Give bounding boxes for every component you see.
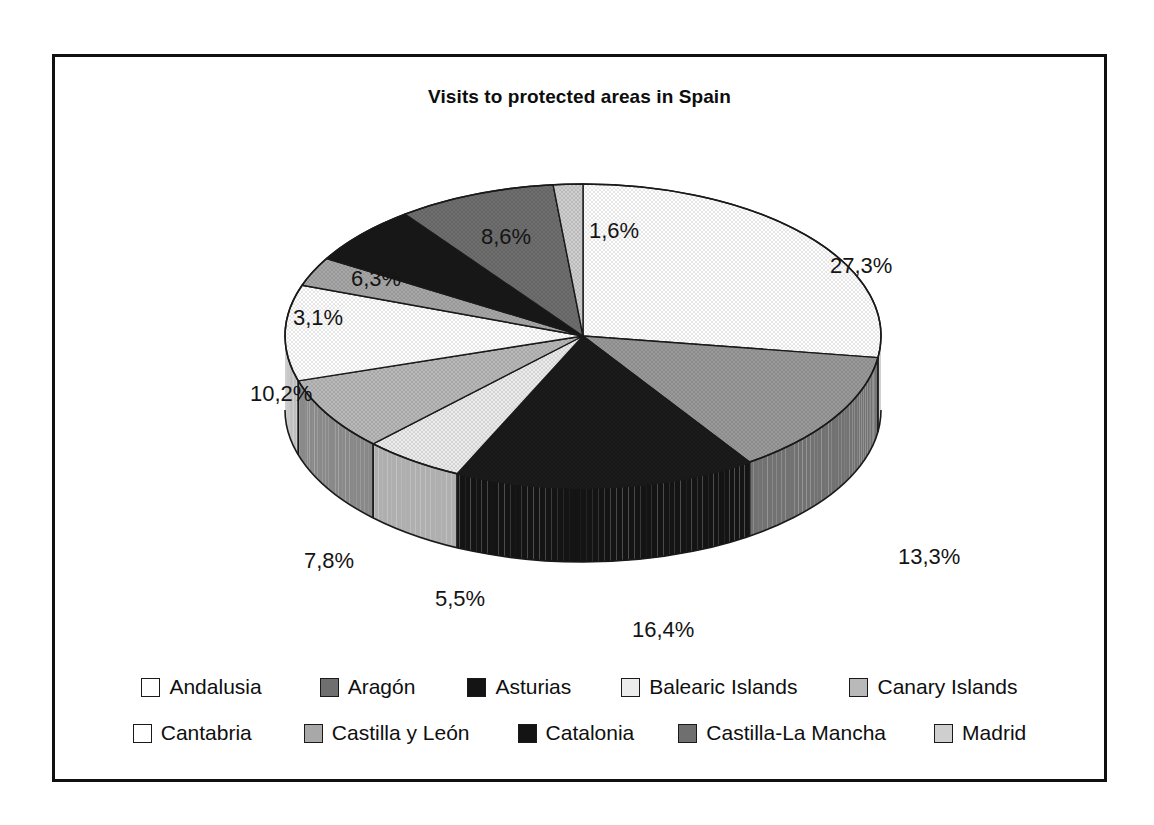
slice-percentage-label: 7,8% bbox=[304, 548, 354, 574]
legend-swatch-icon bbox=[678, 724, 697, 743]
legend-swatch-icon bbox=[304, 724, 323, 743]
legend-swatch-icon bbox=[467, 678, 486, 697]
legend-item-castilla-la-mancha[interactable]: Castilla-La Mancha bbox=[678, 721, 886, 745]
legend-swatch-icon bbox=[518, 724, 537, 743]
legend-row: CantabriaCastilla y LeónCataloniaCastill… bbox=[55, 721, 1104, 745]
legend-swatch-icon bbox=[621, 678, 640, 697]
slice-percentage-label: 1,6% bbox=[589, 218, 639, 244]
legend-item-label: Madrid bbox=[962, 721, 1026, 745]
slice-percentage-label: 27,3% bbox=[830, 253, 892, 279]
legend-item-andalusia[interactable]: Andalusia bbox=[141, 675, 261, 699]
legend-item-label: Canary Islands bbox=[877, 675, 1017, 699]
legend-swatch-icon bbox=[934, 724, 953, 743]
legend-item-asturias[interactable]: Asturias bbox=[467, 675, 571, 699]
legend-item-label: Balearic Islands bbox=[649, 675, 797, 699]
legend-swatch-icon bbox=[320, 678, 339, 697]
slice-percentage-label: 10,2% bbox=[250, 381, 312, 407]
pie-chart: 27,3%13,3%16,4%5,5%7,8%10,2%3,1%6,3%8,6%… bbox=[55, 57, 1110, 617]
legend-swatch-icon bbox=[141, 678, 160, 697]
legend-swatch-icon bbox=[849, 678, 868, 697]
legend-item-catalonia[interactable]: Catalonia bbox=[518, 721, 635, 745]
legend-item-label: Andalusia bbox=[169, 675, 261, 699]
legend-row: AndalusiaAragónAsturiasBalearic IslandsC… bbox=[55, 675, 1104, 699]
chart-canvas: Visits to protected areas in Spain 27,3%… bbox=[0, 0, 1154, 825]
legend-swatch-icon bbox=[133, 724, 152, 743]
slice-percentage-label: 3,1% bbox=[293, 305, 343, 331]
slice-percentage-label: 5,5% bbox=[435, 586, 485, 612]
legend-item-label: Cantabria bbox=[161, 721, 252, 745]
legend-item-label: Aragón bbox=[348, 675, 416, 699]
slice-percentage-label: 6,3% bbox=[351, 266, 401, 292]
legend-item-canary-islands[interactable]: Canary Islands bbox=[849, 675, 1017, 699]
pie-svg bbox=[55, 57, 1110, 617]
chart-frame: Visits to protected areas in Spain 27,3%… bbox=[52, 54, 1107, 782]
legend-item-castilla-y-le-n[interactable]: Castilla y León bbox=[304, 721, 470, 745]
legend-item-label: Castilla y León bbox=[332, 721, 470, 745]
legend-item-label: Catalonia bbox=[546, 721, 635, 745]
legend-item-madrid[interactable]: Madrid bbox=[934, 721, 1026, 745]
legend-item-balearic-islands[interactable]: Balearic Islands bbox=[621, 675, 797, 699]
slice-percentage-label: 8,6% bbox=[481, 224, 531, 250]
legend-item-label: Castilla-La Mancha bbox=[706, 721, 886, 745]
legend: AndalusiaAragónAsturiasBalearic IslandsC… bbox=[55, 675, 1104, 745]
legend-item-arag-n[interactable]: Aragón bbox=[320, 675, 416, 699]
slice-percentage-label: 13,3% bbox=[898, 544, 960, 570]
legend-item-label: Asturias bbox=[495, 675, 571, 699]
legend-item-cantabria[interactable]: Cantabria bbox=[133, 721, 252, 745]
slice-percentage-label: 16,4% bbox=[632, 617, 694, 643]
